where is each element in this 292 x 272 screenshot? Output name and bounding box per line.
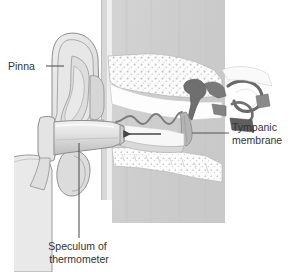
label-pinna: Pinna [8, 60, 35, 72]
label-speculum-of-thermometer: Speculum of thermometer [48, 240, 109, 265]
ear-anatomy-figure: Pinna Tympanic membrane Speculum of ther… [0, 0, 292, 272]
label-tympanic-membrane-line-2: membrane [232, 134, 282, 146]
label-speculum-line-2: thermometer [49, 253, 109, 265]
label-tympanic-membrane: Tympanic membrane [232, 121, 282, 146]
label-pinna-line-1: Pinna [8, 60, 35, 72]
label-speculum-line-1: Speculum of [48, 240, 106, 252]
anatomy-illustration-canvas: Pinna Tympanic membrane Speculum of ther… [0, 0, 292, 272]
label-tympanic-membrane-line-1: Tympanic [232, 121, 277, 133]
